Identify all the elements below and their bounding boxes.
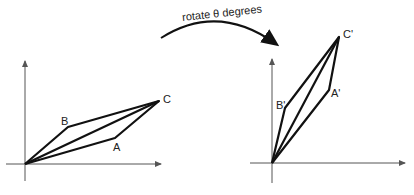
label-c: C (163, 93, 171, 105)
label-a-prime: A' (331, 87, 340, 99)
rotate-label: rotate θ degrees (182, 3, 263, 23)
label-a: A (113, 141, 121, 153)
label-b-prime: B' (276, 99, 285, 111)
right-axes (250, 59, 405, 183)
rotate-arrow (161, 21, 276, 44)
original-parallelogram (25, 101, 159, 164)
label-b: B (61, 115, 68, 127)
label-c-prime: C' (343, 28, 353, 40)
rotation-diagram: B A C rotate θ degrees B' A' C' (0, 0, 414, 195)
